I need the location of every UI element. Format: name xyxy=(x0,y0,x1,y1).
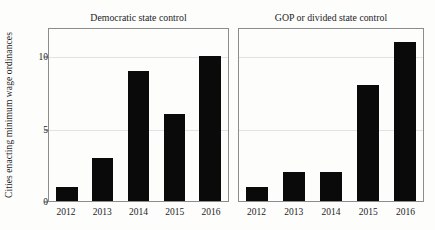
x-tick-label: 2016 xyxy=(193,204,229,220)
x-axis-labels-democratic: 20122013201420152016 xyxy=(48,204,229,220)
x-tick-label: 2015 xyxy=(350,204,387,220)
bar-slot xyxy=(156,29,192,201)
x-tick-label: 2012 xyxy=(238,204,275,220)
plot-panel-gop xyxy=(238,28,424,202)
bar-slot xyxy=(313,29,350,201)
bar-slot xyxy=(386,29,423,201)
x-tick-label: 2014 xyxy=(120,204,156,220)
y-axis-ticks: 0510 xyxy=(20,0,48,230)
bar xyxy=(92,158,113,202)
bar-slot xyxy=(349,29,386,201)
bar-slot xyxy=(85,29,121,201)
bar xyxy=(320,172,342,201)
panel-title-gop: GOP or divided state control xyxy=(238,11,424,25)
bar-slot xyxy=(49,29,85,201)
bar-slot xyxy=(276,29,313,201)
bar-slot xyxy=(121,29,157,201)
plot-panel-democratic xyxy=(48,28,229,202)
x-tick-label: 2015 xyxy=(157,204,193,220)
bar xyxy=(56,187,77,202)
y-axis-label: Cities enacting minimum wage ordinances xyxy=(4,32,14,198)
panel-title-democratic: Democratic state control xyxy=(48,11,229,25)
bar xyxy=(128,71,149,202)
bar xyxy=(199,56,220,201)
y-axis-label-container: Cities enacting minimum wage ordinances xyxy=(0,28,18,202)
bar xyxy=(283,172,305,201)
bar-slot xyxy=(239,29,276,201)
bar xyxy=(394,42,416,202)
bar-group-gop xyxy=(239,29,423,201)
bar xyxy=(164,114,185,201)
bar xyxy=(246,187,268,202)
x-tick-label: 2012 xyxy=(48,204,84,220)
bar-group-democratic xyxy=(49,29,228,201)
x-axis-labels-gop: 20122013201420152016 xyxy=(238,204,424,220)
chart-figure: Cities enacting minimum wage ordinances … xyxy=(0,0,435,230)
x-tick-label: 2013 xyxy=(84,204,120,220)
x-tick-label: 2013 xyxy=(275,204,312,220)
bar xyxy=(357,85,379,201)
bar-slot xyxy=(192,29,228,201)
x-tick-label: 2014 xyxy=(312,204,349,220)
x-tick-label: 2016 xyxy=(387,204,424,220)
